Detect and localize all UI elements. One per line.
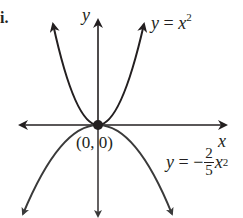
coefficient-fraction: 2 5 bbox=[204, 146, 214, 179]
origin-label: (0, 0) bbox=[76, 134, 113, 151]
equation-equals: = − bbox=[174, 153, 203, 171]
equation-equals: = bbox=[159, 13, 178, 33]
fraction-denominator: 5 bbox=[205, 163, 213, 179]
equation-exponent: 2 bbox=[186, 11, 192, 23]
parabola-graph: i. y x (0, 0) y = x2 y = − 2 5 x2 bbox=[0, 0, 243, 218]
origin-point bbox=[93, 120, 103, 130]
lower-parabola-equation: y = − 2 5 x2 bbox=[166, 146, 228, 179]
equation-lhs: y bbox=[151, 13, 159, 33]
equation-lhs: y bbox=[166, 153, 174, 171]
part-label: i. bbox=[0, 10, 8, 26]
fraction-numerator: 2 bbox=[204, 146, 214, 163]
equation-rhs: x bbox=[215, 153, 223, 171]
graph-svg bbox=[0, 0, 243, 218]
upper-parabola-equation: y = x2 bbox=[151, 12, 192, 32]
upper-parabola-curve-right bbox=[98, 24, 144, 125]
equation-exponent: 2 bbox=[223, 157, 229, 168]
y-axis-label: y bbox=[82, 6, 90, 24]
equation-rhs: x bbox=[178, 13, 186, 33]
upper-parabola-curve bbox=[53, 24, 98, 125]
